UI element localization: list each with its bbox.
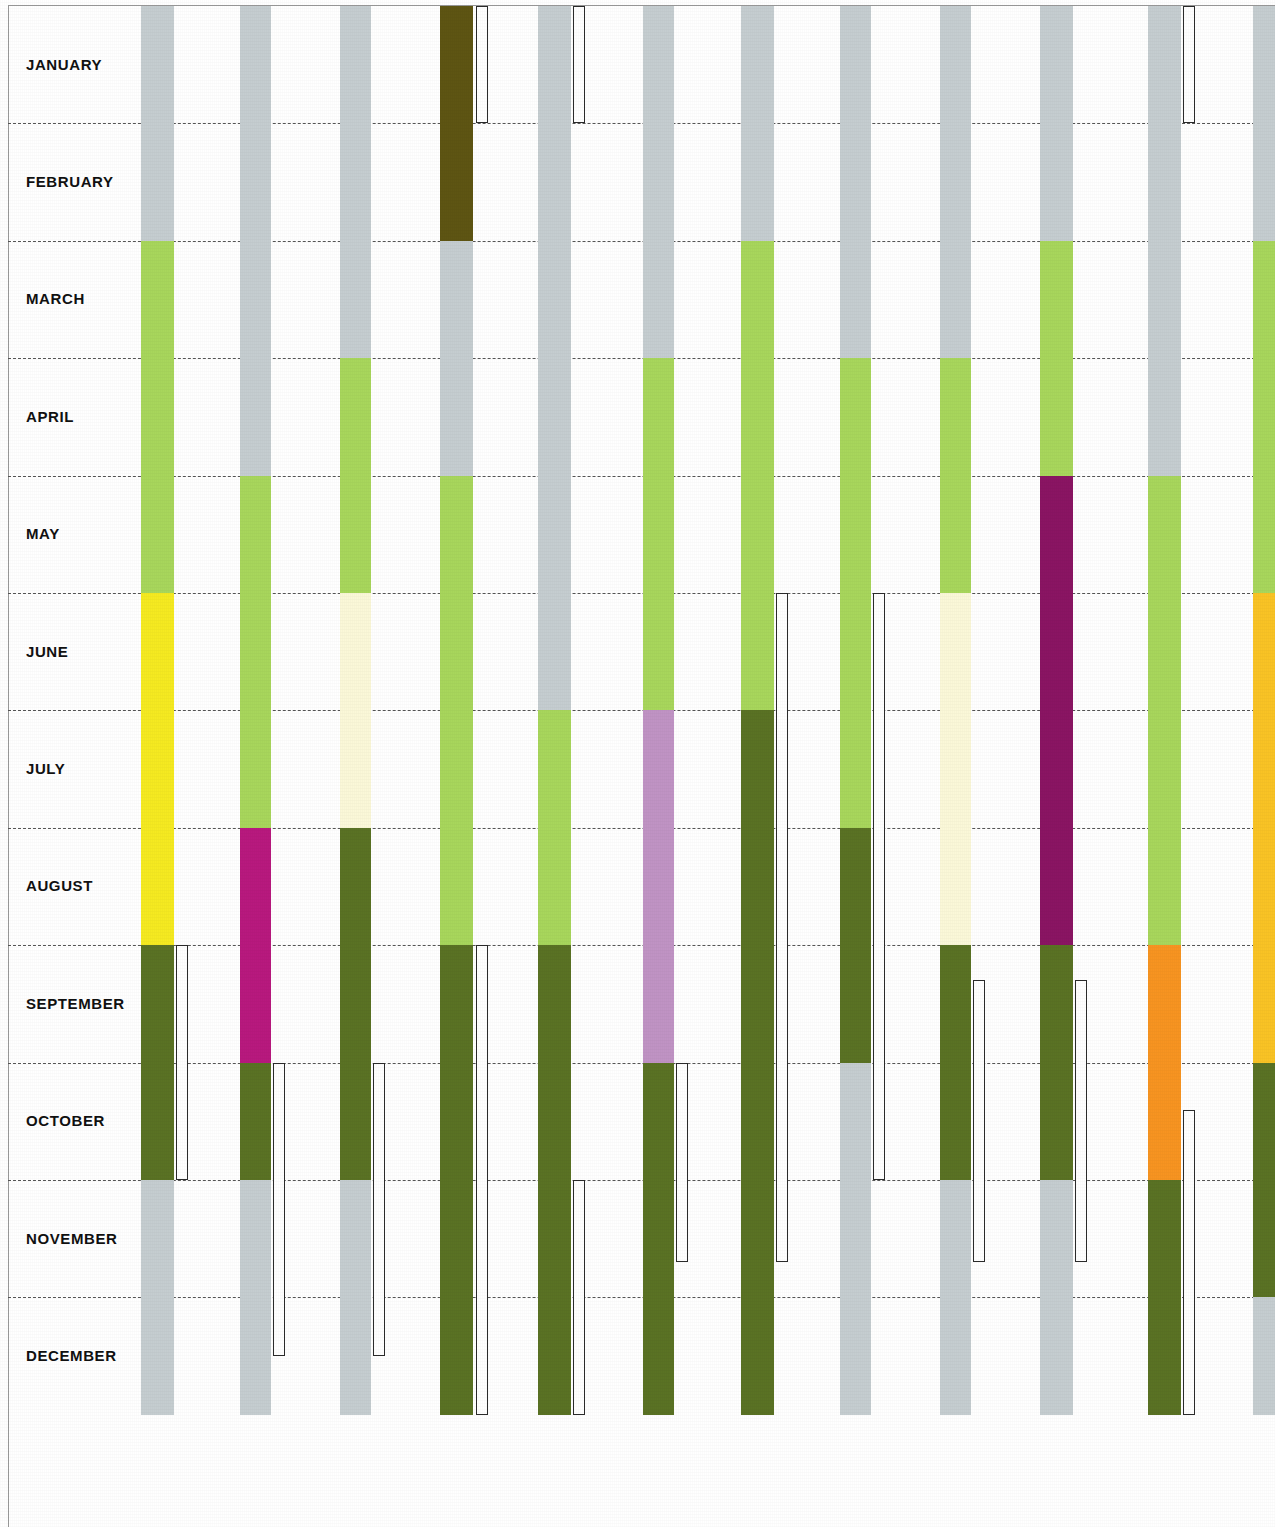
bar-segment-light_green bbox=[1148, 476, 1181, 946]
bar-segment-light_green bbox=[538, 710, 571, 945]
bar-segment-purple bbox=[1040, 476, 1073, 946]
month-label-august: AUGUST bbox=[26, 877, 93, 894]
bar-segment-cream bbox=[940, 593, 971, 945]
bar-column-1 bbox=[141, 0, 174, 1527]
outline-bar-column-8 bbox=[873, 593, 885, 1180]
phenology-chart: JANUARYFEBRUARYMARCHAPRILMAYJUNEJULYAUGU… bbox=[0, 0, 1275, 1527]
outline-bar-column-10 bbox=[1075, 980, 1087, 1262]
bar-column-8 bbox=[840, 0, 871, 1527]
bar-column-5 bbox=[538, 0, 571, 1527]
bar-segment-dark_green bbox=[1148, 1180, 1181, 1415]
month-label-february: FEBRUARY bbox=[26, 173, 114, 190]
bar-segment-grey bbox=[340, 6, 371, 358]
bar-column-12 bbox=[1253, 0, 1275, 1527]
month-row: FEBRUARY bbox=[0, 123, 1275, 240]
bar-segment-light_green bbox=[940, 358, 971, 593]
bar-segment-olive_brown bbox=[440, 6, 473, 241]
month-row: JUNE bbox=[0, 593, 1275, 710]
bar-segment-grey bbox=[538, 6, 571, 710]
bar-segment-grey bbox=[840, 1063, 871, 1415]
bar-segment-dark_green bbox=[840, 828, 871, 1063]
month-label-may: MAY bbox=[26, 525, 60, 542]
bar-column-9 bbox=[940, 0, 971, 1527]
bar-segment-lilac bbox=[643, 710, 674, 1062]
outline-bar-column-4-b bbox=[476, 945, 488, 1415]
outline-bar-column-3 bbox=[373, 1063, 385, 1357]
bar-segment-dark_green bbox=[741, 710, 774, 1414]
bar-segment-dark_green bbox=[340, 828, 371, 1180]
month-label-september: SEPTEMBER bbox=[26, 995, 125, 1012]
bar-segment-grey bbox=[1148, 6, 1181, 476]
bar-segment-grey bbox=[940, 1180, 971, 1415]
month-row: DECEMBER bbox=[0, 1297, 1275, 1414]
bar-segment-dark_green bbox=[1040, 945, 1073, 1180]
bar-segment-grey bbox=[240, 1180, 271, 1415]
month-row: JULY bbox=[0, 710, 1275, 827]
bar-segment-light_green bbox=[643, 358, 674, 710]
bar-segment-grey bbox=[141, 6, 174, 241]
bar-column-7 bbox=[741, 0, 774, 1527]
outline-bar-column-1 bbox=[176, 945, 188, 1180]
outline-bar-column-11 bbox=[1183, 6, 1195, 123]
bar-segment-dark_green bbox=[643, 1063, 674, 1415]
month-row: JANUARY bbox=[0, 6, 1275, 123]
bar-segment-yellow bbox=[141, 593, 174, 945]
outline-bar-column-2 bbox=[273, 1063, 285, 1357]
bar-segment-grey bbox=[1040, 1180, 1073, 1415]
bar-segment-light_green bbox=[840, 358, 871, 828]
bar-column-4 bbox=[440, 0, 473, 1527]
outline-bar-column-11-b bbox=[1183, 1110, 1195, 1415]
bar-segment-grey bbox=[1253, 6, 1275, 241]
bar-column-6 bbox=[643, 0, 674, 1527]
bar-segment-grey bbox=[940, 6, 971, 358]
bar-column-10 bbox=[1040, 0, 1073, 1527]
bar-segment-grey bbox=[643, 6, 674, 358]
month-label-march: MARCH bbox=[26, 290, 85, 307]
bar-segment-grey bbox=[240, 6, 271, 476]
outline-bar-column-4 bbox=[476, 6, 488, 123]
bar-segment-grey bbox=[1040, 6, 1073, 241]
month-row: MAY bbox=[0, 476, 1275, 593]
month-label-january: JANUARY bbox=[26, 56, 102, 73]
bar-segment-dark_green bbox=[141, 945, 174, 1180]
bar-segment-grey bbox=[141, 1180, 174, 1415]
bar-segment-light_green bbox=[1040, 241, 1073, 476]
month-label-december: DECEMBER bbox=[26, 1347, 117, 1364]
bar-segment-light_green bbox=[141, 241, 174, 593]
bar-segment-dark_green bbox=[1253, 1063, 1275, 1298]
outline-bar-column-5-b bbox=[573, 1180, 585, 1415]
bar-segment-dark_green bbox=[538, 945, 571, 1415]
bar-segment-gold bbox=[1253, 593, 1275, 1063]
month-row: AUGUST bbox=[0, 828, 1275, 945]
month-label-june: JUNE bbox=[26, 643, 68, 660]
month-label-november: NOVEMBER bbox=[26, 1230, 117, 1247]
outline-bar-column-6 bbox=[676, 1063, 688, 1263]
bar-segment-dark_green bbox=[440, 945, 473, 1415]
bar-segment-dark_green bbox=[240, 1063, 271, 1180]
bar-segment-magenta bbox=[240, 828, 271, 1063]
month-label-october: OCTOBER bbox=[26, 1112, 105, 1129]
month-label-july: JULY bbox=[26, 760, 65, 777]
bar-segment-grey bbox=[840, 6, 871, 358]
bar-segment-grey bbox=[340, 1180, 371, 1415]
outline-bar-column-5 bbox=[573, 6, 585, 123]
bar-segment-grey bbox=[1253, 1297, 1275, 1414]
bar-segment-grey bbox=[440, 241, 473, 476]
bar-column-11 bbox=[1148, 0, 1181, 1527]
bar-column-3 bbox=[340, 0, 371, 1527]
bar-segment-grey bbox=[741, 6, 774, 241]
month-row: MARCH bbox=[0, 241, 1275, 358]
bar-segment-light_green bbox=[340, 358, 371, 593]
bar-segment-cream bbox=[340, 593, 371, 828]
bar-segment-light_green bbox=[240, 476, 271, 828]
bar-segment-light_green bbox=[741, 241, 774, 711]
bar-segment-orange bbox=[1148, 945, 1181, 1180]
bar-column-2 bbox=[240, 0, 271, 1527]
bar-segment-light_green bbox=[1253, 241, 1275, 593]
month-label-april: APRIL bbox=[26, 408, 74, 425]
bar-segment-light_green bbox=[440, 476, 473, 946]
outline-bar-column-7 bbox=[776, 593, 788, 1262]
bar-segment-dark_green bbox=[940, 945, 971, 1180]
outline-bar-column-9 bbox=[973, 980, 985, 1262]
month-row: APRIL bbox=[0, 358, 1275, 475]
